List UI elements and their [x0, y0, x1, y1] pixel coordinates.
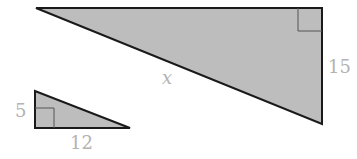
leg-label-15: 15: [328, 56, 351, 77]
leg-label-12: 12: [70, 132, 93, 153]
large-triangle: [36, 8, 322, 124]
leg-label-5: 5: [15, 100, 26, 121]
small-triangle: [35, 91, 130, 128]
similar-triangles-diagram: x 15 5 12: [0, 0, 357, 159]
hypotenuse-label: x: [162, 67, 172, 88]
